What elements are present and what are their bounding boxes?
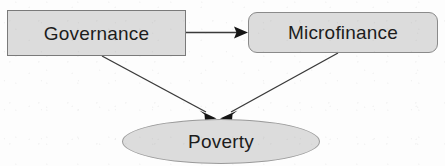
edge-line: [102, 56, 206, 112]
node-poverty-label: Poverty: [188, 132, 254, 151]
edge-governance-to-poverty: [102, 56, 217, 121]
node-microfinance[interactable]: Microfinance: [248, 12, 438, 53]
node-governance-label: Governance: [44, 24, 150, 43]
edge-line: [231, 53, 338, 112]
node-governance[interactable]: Governance: [7, 10, 186, 56]
edge-governance-to-microfinance: [186, 27, 248, 39]
edge-microfinance-to-poverty: [220, 53, 338, 121]
node-microfinance-label: Microfinance: [288, 23, 398, 42]
node-poverty[interactable]: Poverty: [122, 119, 320, 164]
diagram-canvas: Governance Microfinance Poverty: [0, 0, 445, 166]
